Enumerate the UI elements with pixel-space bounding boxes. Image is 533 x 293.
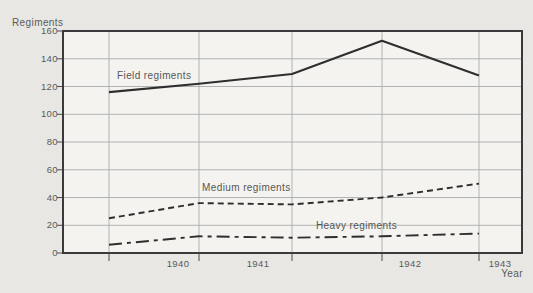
y-tick-60: 60 xyxy=(26,164,58,175)
y-tick-100: 100 xyxy=(26,108,58,119)
x-tick-1941: 1941 xyxy=(238,258,278,269)
y-tick-140: 140 xyxy=(26,53,58,64)
y-tick-120: 120 xyxy=(26,81,58,92)
x-tick-1942: 1942 xyxy=(390,258,430,269)
y-tick-80: 80 xyxy=(26,136,58,147)
y-tick-0: 0 xyxy=(26,247,58,258)
series-label-heavy-regiments: Heavy regiments xyxy=(316,220,397,231)
chart-canvas xyxy=(0,0,533,293)
series-label-medium-regiments: Medium regiments xyxy=(202,182,291,193)
x-tick-1940: 1940 xyxy=(158,258,198,269)
y-tick-20: 20 xyxy=(26,219,58,230)
series-label-field-regiments: Field regiments xyxy=(117,70,191,81)
y-tick-160: 160 xyxy=(26,25,58,36)
y-tick-40: 40 xyxy=(26,192,58,203)
scanned-line-chart: Regiments 160 140 120 100 80 60 40 20 0 … xyxy=(0,0,533,293)
x-axis-title: Year xyxy=(493,268,523,279)
